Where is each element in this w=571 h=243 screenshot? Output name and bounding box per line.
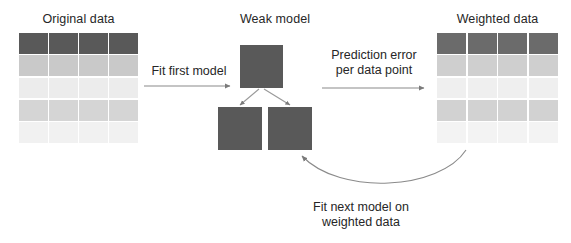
original-data-cell xyxy=(19,33,48,54)
weighted-data-title: Weighted data xyxy=(437,12,558,26)
fit-first-model-label: Fit first model xyxy=(141,64,237,79)
weighted-data-cell xyxy=(437,122,466,143)
weighted-data-cell xyxy=(468,33,497,54)
root-to-right-leaf-connector xyxy=(264,89,290,105)
weighted-data-cell xyxy=(498,100,527,121)
weighted-data-cell xyxy=(437,78,466,99)
original-data-cell xyxy=(49,55,78,76)
weighted-data-cell xyxy=(437,100,466,121)
original-data-grid xyxy=(19,33,138,143)
original-data-cell xyxy=(19,55,48,76)
weighted-data-cell xyxy=(529,78,558,99)
prediction-error-label-line2: per data point xyxy=(336,63,412,77)
original-data-cell xyxy=(19,122,48,143)
weighted-data-cell xyxy=(437,33,466,54)
original-data-cell xyxy=(19,78,48,99)
original-data-cell xyxy=(79,55,108,76)
weighted-data-cell xyxy=(498,78,527,99)
weighted-data-cell xyxy=(468,78,497,99)
original-data-cell xyxy=(49,78,78,99)
boosting-diagram: Original data Weak model Weighted data F… xyxy=(0,0,571,243)
right-leaf-node xyxy=(268,107,312,150)
original-data-cell xyxy=(49,100,78,121)
weighted-data-cell xyxy=(529,33,558,54)
weighted-data-cell xyxy=(498,33,527,54)
weighted-data-cell xyxy=(468,55,497,76)
weighted-data-cell xyxy=(529,122,558,143)
original-data-cell xyxy=(49,33,78,54)
weighted-data-grid xyxy=(437,33,558,143)
original-data-cell xyxy=(79,33,108,54)
original-data-cell xyxy=(49,122,78,143)
original-data-cell xyxy=(79,122,108,143)
original-data-cell xyxy=(79,100,108,121)
original-data-cell xyxy=(109,100,138,121)
weighted-data-cell xyxy=(529,55,558,76)
weak-model-title: Weak model xyxy=(213,12,337,26)
original-data-cell xyxy=(109,122,138,143)
root-to-left-leaf-connector xyxy=(240,89,259,105)
fit-next-model-curved-arrow xyxy=(302,150,466,183)
prediction-error-label: Prediction error per data point xyxy=(316,48,432,78)
weighted-data-cell xyxy=(498,122,527,143)
original-data-cell xyxy=(109,33,138,54)
original-data-title: Original data xyxy=(19,12,138,26)
weighted-data-cell xyxy=(468,100,497,121)
weighted-data-cell xyxy=(498,55,527,76)
fit-next-model-label-line2: weighted data xyxy=(322,215,400,229)
fit-next-model-label-line1: Fit next model on xyxy=(313,200,409,214)
original-data-cell xyxy=(79,78,108,99)
prediction-error-label-line1: Prediction error xyxy=(331,48,416,62)
weighted-data-cell xyxy=(437,55,466,76)
original-data-cell xyxy=(109,78,138,99)
left-leaf-node xyxy=(218,107,262,150)
weighted-data-cell xyxy=(468,122,497,143)
weighted-data-cell xyxy=(529,100,558,121)
fit-next-model-label: Fit next model on weighted data xyxy=(281,200,441,230)
original-data-cell xyxy=(109,55,138,76)
root-node xyxy=(240,45,283,88)
original-data-cell xyxy=(19,100,48,121)
